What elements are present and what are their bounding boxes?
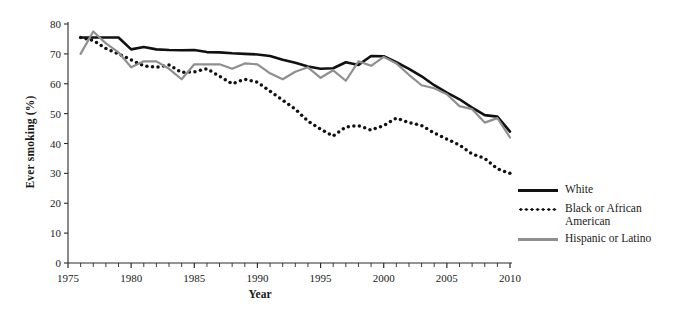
svg-text:30: 30: [50, 167, 62, 179]
svg-text:1985: 1985: [183, 272, 206, 284]
legend-item-hispanic-or-latino: Hispanic or Latino: [518, 232, 678, 246]
svg-text:10: 10: [50, 227, 62, 239]
legend-swatch-black-or-african-american-icon: [518, 202, 558, 216]
legend-label-line1: Black or African: [565, 202, 642, 214]
y-axis-title: Ever smoking (%): [24, 62, 36, 222]
legend-label-line2: American: [565, 215, 610, 227]
legend-label-hispanic-or-latino: Hispanic or Latino: [565, 232, 651, 245]
legend-label-white: White: [565, 183, 593, 196]
svg-text:1990: 1990: [246, 272, 269, 284]
tick-labels: 0102030405060708019751980198519901995200…: [50, 18, 522, 284]
svg-text:1995: 1995: [310, 272, 333, 284]
svg-text:20: 20: [50, 197, 62, 209]
legend-item-black-or-african-american: Black or AfricanAmerican: [518, 202, 678, 227]
svg-text:60: 60: [50, 78, 62, 90]
chart-root: 0102030405060708019751980198519901995200…: [0, 0, 681, 315]
legend-swatch-white-icon: [518, 183, 558, 197]
data-series: [79, 31, 512, 175]
legend: White Black or AfricanAmerican Hispanic …: [518, 183, 678, 251]
svg-text:50: 50: [50, 108, 62, 120]
line-chart: 0102030405060708019751980198519901995200…: [0, 0, 681, 315]
svg-text:2010: 2010: [499, 272, 522, 284]
svg-text:80: 80: [50, 18, 62, 30]
svg-text:1980: 1980: [120, 272, 143, 284]
legend-swatch-hispanic-or-latino-icon: [518, 232, 558, 246]
legend-label-black-or-african-american: Black or AfricanAmerican: [565, 202, 642, 227]
svg-text:70: 70: [50, 48, 62, 60]
legend-item-white: White: [518, 183, 678, 197]
svg-text:2005: 2005: [436, 272, 459, 284]
svg-text:0: 0: [56, 257, 62, 269]
svg-text:1975: 1975: [57, 272, 80, 284]
svg-text:40: 40: [50, 138, 62, 150]
x-axis-title: Year: [0, 288, 520, 300]
svg-text:2000: 2000: [373, 272, 396, 284]
